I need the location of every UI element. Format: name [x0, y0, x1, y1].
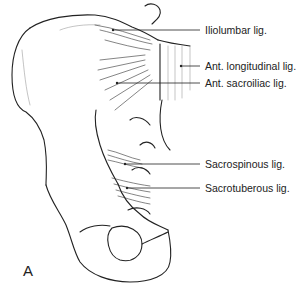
hip-bone-outline	[12, 15, 171, 282]
label-ant-longitudinal-lig: Ant. longitudinal lig.	[205, 60, 296, 72]
pelvis-drawing	[0, 0, 304, 288]
label-sacrotuberous-lig: Sacrotuberous lig.	[205, 182, 290, 194]
label-ant-sacroiliac-lig: Ant. sacroiliac lig.	[205, 77, 287, 89]
pelvis-ligament-diagram: Iliolumbar lig. Ant. longitudinal lig. A…	[0, 0, 304, 288]
label-iliolumbar-lig: Iliolumbar lig.	[205, 24, 267, 36]
label-sacrospinous-lig: Sacrospinous lig.	[205, 158, 285, 170]
leader-lines	[112, 29, 200, 189]
panel-letter: A	[23, 262, 33, 279]
ligament-fibers	[95, 25, 152, 204]
sacrum-outline	[128, 4, 190, 214]
obturator-foramen	[108, 226, 142, 260]
